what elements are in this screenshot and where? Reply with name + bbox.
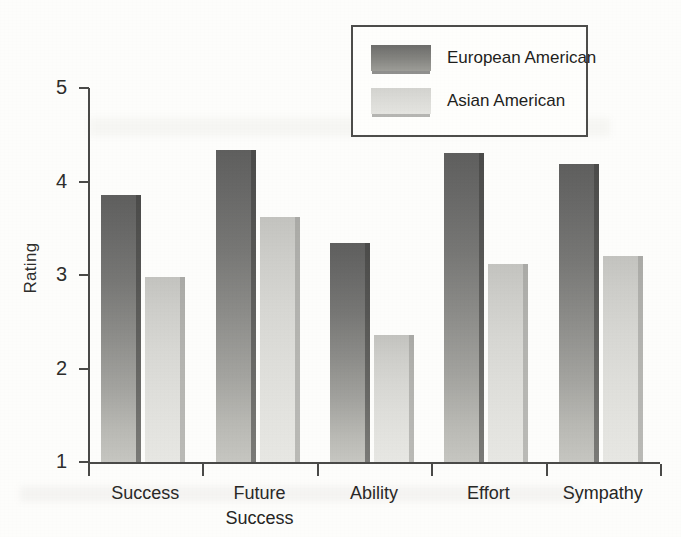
y-axis-tick-label: 5 bbox=[37, 77, 67, 97]
bar-1-2 bbox=[374, 335, 414, 462]
x-axis-tick-mark bbox=[431, 464, 433, 476]
x-axis-category-label: Sympathy bbox=[546, 481, 660, 506]
bar-1-3 bbox=[488, 264, 528, 462]
chart-page: Rating 54321 SuccessFuture SuccessAbilit… bbox=[0, 0, 681, 537]
bar-0-4 bbox=[559, 164, 599, 462]
x-axis-tick-mark bbox=[660, 464, 662, 476]
bar-0-1 bbox=[216, 150, 256, 462]
x-axis-tick-mark bbox=[546, 464, 548, 476]
x-axis-tick-mark bbox=[317, 464, 319, 476]
y-axis-tick-mark bbox=[79, 368, 89, 370]
y-axis-tick-label: 3 bbox=[37, 264, 67, 284]
y-axis-tick-label: 1 bbox=[37, 451, 67, 471]
x-axis-category-label: Ability bbox=[317, 481, 431, 506]
x-axis-category-label: Future Success bbox=[202, 481, 316, 531]
bar-0-0 bbox=[101, 195, 141, 462]
legend-swatch-icon-asian-american bbox=[371, 88, 431, 114]
bar-1-4 bbox=[603, 256, 643, 462]
y-axis-tick-mark bbox=[79, 274, 89, 276]
y-axis-line bbox=[88, 88, 90, 464]
bar-1-0 bbox=[145, 277, 185, 462]
bar-chart-plot-area: Rating 54321 SuccessFuture SuccessAbilit… bbox=[0, 0, 681, 537]
x-axis-line bbox=[88, 462, 660, 464]
y-axis-tick-mark bbox=[79, 181, 89, 183]
chart-legend: European American Asian American bbox=[351, 25, 588, 137]
legend-label-asian-american: Asian American bbox=[447, 91, 565, 111]
bar-1-1 bbox=[260, 217, 300, 462]
y-axis-tick-label: 4 bbox=[37, 171, 67, 191]
x-axis-tick-mark bbox=[88, 464, 90, 476]
x-axis-tick-mark bbox=[202, 464, 204, 476]
y-axis-tick-label: 2 bbox=[37, 358, 67, 378]
y-axis-tick-mark bbox=[79, 461, 89, 463]
y-axis-tick-mark bbox=[79, 87, 89, 89]
x-axis-category-label: Success bbox=[88, 481, 202, 506]
legend-entry-european-american: European American bbox=[371, 41, 596, 75]
x-axis-category-label: Effort bbox=[431, 481, 545, 506]
legend-swatch-icon-european-american bbox=[371, 45, 431, 71]
legend-label-european-american: European American bbox=[447, 48, 596, 68]
legend-entry-asian-american: Asian American bbox=[371, 84, 565, 118]
bar-0-2 bbox=[330, 243, 370, 462]
bar-0-3 bbox=[444, 153, 484, 462]
